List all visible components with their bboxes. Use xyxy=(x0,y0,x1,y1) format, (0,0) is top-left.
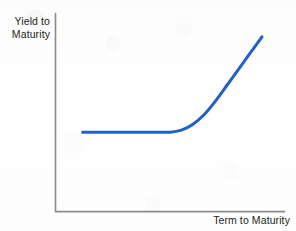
yield-curve-figure: Yield to Maturity Term to Maturity xyxy=(0,0,296,231)
yield-curve-line xyxy=(83,37,262,132)
y-axis-label: Yield to Maturity xyxy=(0,15,50,41)
x-axis-label: Term to Maturity xyxy=(150,214,296,227)
